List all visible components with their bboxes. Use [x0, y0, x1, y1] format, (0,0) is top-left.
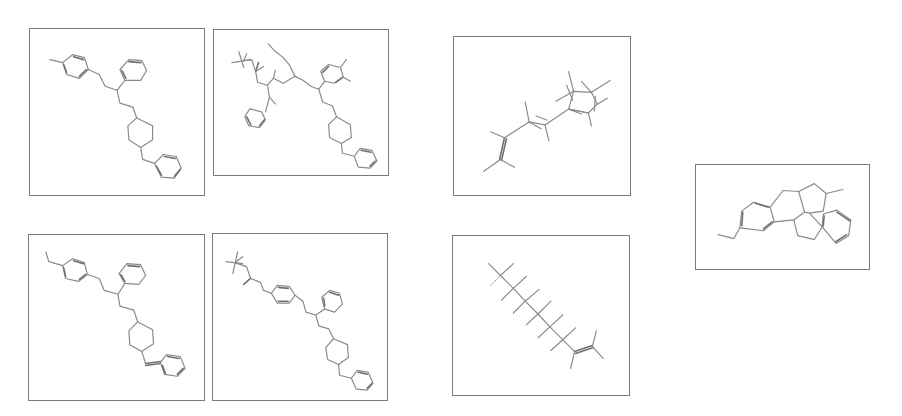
structure-7-drawing — [696, 165, 869, 269]
structure-5-drawing — [213, 234, 387, 400]
structure-1-drawing — [30, 29, 204, 195]
structure-5-box — [212, 233, 388, 401]
structure-4-box — [28, 234, 205, 401]
structure-3-drawing — [454, 37, 630, 195]
structure-1-box — [29, 28, 205, 196]
structure-2-box — [213, 29, 389, 176]
structure-6-drawing — [453, 236, 629, 395]
structure-6-box — [452, 235, 630, 396]
structure-7-box — [695, 164, 870, 270]
structure-2-drawing — [214, 30, 388, 175]
structure-3-box — [453, 36, 631, 196]
structure-4-drawing — [29, 235, 204, 400]
